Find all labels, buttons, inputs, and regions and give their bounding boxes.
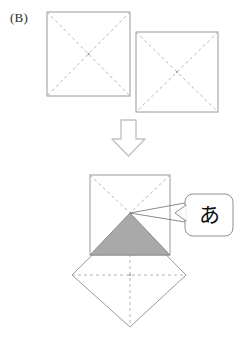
down-arrow-shape bbox=[112, 120, 145, 156]
figure-diagram bbox=[0, 0, 245, 351]
square-left-center-dot bbox=[88, 53, 90, 55]
result-figure-group bbox=[72, 175, 186, 327]
square-right bbox=[136, 32, 218, 112]
top-squares-group bbox=[47, 12, 218, 112]
figure-panel-b: (B) あ bbox=[0, 0, 245, 351]
callout-label: あ bbox=[185, 194, 233, 236]
result-diamond-center-dot bbox=[129, 274, 131, 276]
square-left bbox=[47, 12, 130, 96]
down-arrow-icon bbox=[112, 120, 145, 156]
square-right-center-dot bbox=[176, 71, 178, 73]
panel-label: (B) bbox=[10, 10, 28, 26]
